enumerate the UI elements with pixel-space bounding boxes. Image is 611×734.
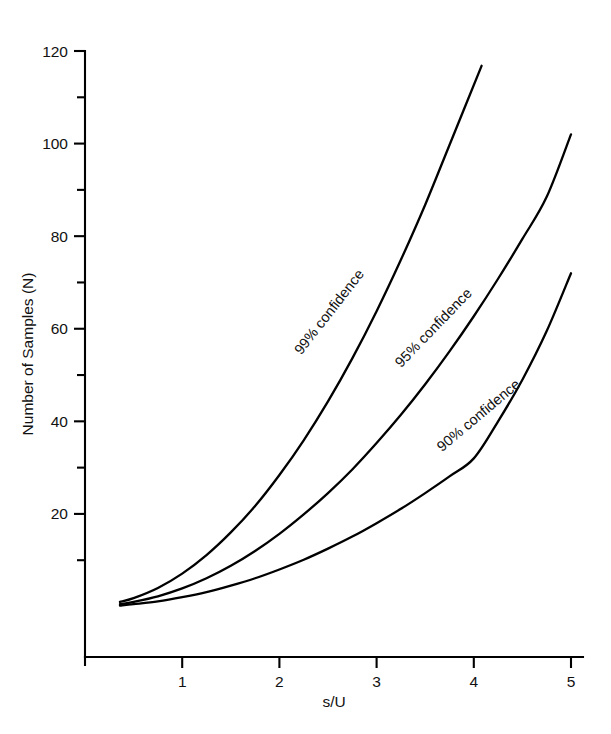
figure-root: 20406080100120 12345 99% confidence95% c… [0, 0, 611, 734]
chart-background [0, 0, 611, 734]
y-tick-label: 120 [42, 43, 68, 60]
y-tick-label: 20 [51, 505, 69, 522]
y-axis-title: Number of Samples (N) [19, 273, 36, 436]
sample-size-chart: 20406080100120 12345 99% confidence95% c… [0, 0, 611, 734]
y-tick-label: 40 [51, 413, 69, 430]
x-tick-label: 1 [178, 673, 187, 690]
x-axis-title: s/U [322, 693, 345, 710]
y-tick-label: 60 [51, 320, 69, 337]
x-tick-label: 3 [372, 673, 381, 690]
x-tick-label: 2 [275, 673, 284, 690]
x-tick-label: 5 [567, 673, 576, 690]
y-tick-label: 80 [51, 228, 69, 245]
x-tick-label: 4 [469, 673, 478, 690]
y-tick-label: 100 [42, 135, 68, 152]
